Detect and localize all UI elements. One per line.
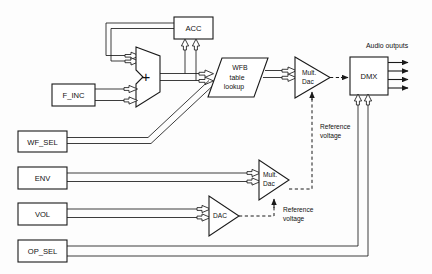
acc-input-arrow-1 bbox=[181, 39, 188, 50]
mult-dac-top-arrow-2 bbox=[282, 74, 297, 81]
mult-dac-top-label-line2: Dac bbox=[302, 78, 314, 85]
block-env-label: ENV bbox=[35, 174, 52, 183]
mult-dac-top-label-line1: Mult. bbox=[302, 69, 316, 76]
wfb-input-arrow-1 bbox=[199, 70, 214, 77]
ref-voltage-top-label-line2: voltage bbox=[320, 132, 342, 140]
block-wf-sel-label: WF_SEL bbox=[27, 138, 57, 147]
audio-outputs-label: Audio outputs bbox=[366, 42, 409, 50]
ref-voltage-bottom-label-line2: voltage bbox=[283, 215, 305, 223]
wfb-label-line1: WFB bbox=[232, 64, 248, 71]
adder-plus-label: + bbox=[142, 68, 151, 85]
block-acc-label: ACC bbox=[185, 24, 202, 33]
ref-voltage-top-label-line1: Reference bbox=[320, 123, 351, 130]
mult-dac-mid-label-line2: Dac bbox=[263, 180, 275, 187]
acc-input-arrow-2 bbox=[192, 39, 199, 50]
ref-voltage-top-line bbox=[289, 96, 312, 189]
block-vol-label: VOL bbox=[35, 210, 50, 219]
dmx-control-arrow-1 bbox=[354, 94, 361, 105]
wfb-label-line2: table bbox=[230, 74, 245, 81]
mult-dac-top-arrow-1 bbox=[282, 67, 297, 74]
block-op-sel-label: OP_SEL bbox=[28, 247, 58, 256]
dmx-control-arrow-2 bbox=[364, 94, 371, 105]
block-diagram: ACC + F_INC WFB table lookup bbox=[0, 0, 432, 274]
block-f-inc-label: F_INC bbox=[63, 91, 85, 100]
ref-voltage-bottom-label-line1: Reference bbox=[283, 206, 314, 213]
wfb-label-line3: lookup bbox=[224, 83, 244, 91]
block-dac-label: DAC bbox=[213, 212, 227, 219]
block-dmx-label: DMX bbox=[361, 72, 378, 81]
mult-dac-mid-label-line1: Mult. bbox=[263, 171, 277, 178]
diagram-canvas: ACC + F_INC WFB table lookup bbox=[0, 0, 432, 274]
ref-voltage-bottom-line bbox=[239, 204, 274, 216]
